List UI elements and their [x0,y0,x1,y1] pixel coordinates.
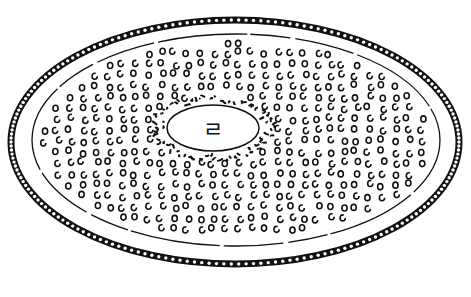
dish-drawing: ㄹ [0,0,471,297]
center-glyph: ㄹ [203,117,223,142]
dish-illustration: ㄹ [0,0,471,297]
